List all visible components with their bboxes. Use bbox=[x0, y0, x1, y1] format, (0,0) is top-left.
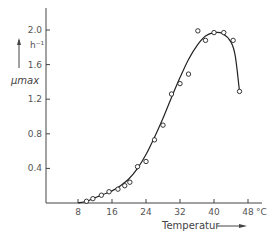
data-point bbox=[144, 159, 148, 163]
x-tick-label: 8 bbox=[75, 207, 81, 217]
y-tick-label: 0.4 bbox=[28, 163, 43, 173]
axes bbox=[46, 8, 262, 203]
data-point bbox=[196, 29, 200, 33]
x-tick-label: 32 bbox=[174, 207, 185, 217]
data-point bbox=[212, 30, 216, 34]
data-point bbox=[178, 81, 182, 85]
data-point bbox=[123, 184, 127, 188]
data-point bbox=[84, 199, 88, 203]
data-point bbox=[231, 38, 235, 42]
x-axis-label: Temperatur bbox=[161, 220, 220, 231]
y-arrow-head-icon bbox=[17, 38, 21, 45]
data-point bbox=[116, 187, 120, 191]
data-point bbox=[186, 72, 190, 76]
x-tick-label: 48 bbox=[242, 207, 254, 217]
y-tick-label: 2.0 bbox=[28, 25, 43, 35]
y-tick-label: 0.8 bbox=[28, 129, 43, 139]
chart: 0.40.81.21.62.0 81624324048 μmax h⁻¹ Tem… bbox=[0, 0, 279, 241]
data-point bbox=[128, 180, 132, 184]
fitted-curve bbox=[78, 32, 240, 203]
y-unit-label: h⁻¹ bbox=[30, 40, 44, 50]
x-tick-label: 24 bbox=[140, 207, 152, 217]
data-point bbox=[222, 30, 226, 34]
data-point bbox=[161, 123, 165, 127]
data-point bbox=[203, 38, 207, 42]
x-tick-label: 40 bbox=[208, 207, 220, 217]
x-tick-label: 16 bbox=[106, 207, 118, 217]
x-arrow-head-icon bbox=[239, 224, 247, 228]
y-tick-label: 1.2 bbox=[28, 94, 42, 104]
data-point bbox=[107, 190, 111, 194]
data-point bbox=[152, 138, 156, 142]
data-point bbox=[135, 164, 139, 168]
data-point bbox=[99, 193, 103, 197]
y-tick-label: 1.6 bbox=[28, 60, 43, 70]
y-axis-label: μmax bbox=[10, 75, 39, 86]
data-points bbox=[84, 29, 241, 204]
data-point bbox=[237, 89, 241, 93]
data-point bbox=[169, 92, 173, 96]
x-ticks: 81624324048 bbox=[75, 199, 254, 217]
data-point bbox=[91, 196, 95, 200]
x-unit-label: °C bbox=[256, 207, 267, 217]
